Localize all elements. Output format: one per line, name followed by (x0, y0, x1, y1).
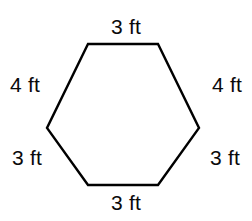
side-label-lower-right: 3 ft (210, 147, 240, 168)
hexagon-outline (47, 44, 199, 185)
side-label-bottom: 3 ft (0, 192, 252, 213)
side-label-upper-right: 4 ft (212, 74, 242, 95)
side-label-lower-left: 3 ft (12, 147, 42, 168)
side-label-top: 3 ft (0, 16, 252, 37)
geometry-figure: 3 ft 4 ft 4 ft 3 ft 3 ft 3 ft (0, 0, 252, 221)
side-label-upper-left: 4 ft (10, 74, 40, 95)
